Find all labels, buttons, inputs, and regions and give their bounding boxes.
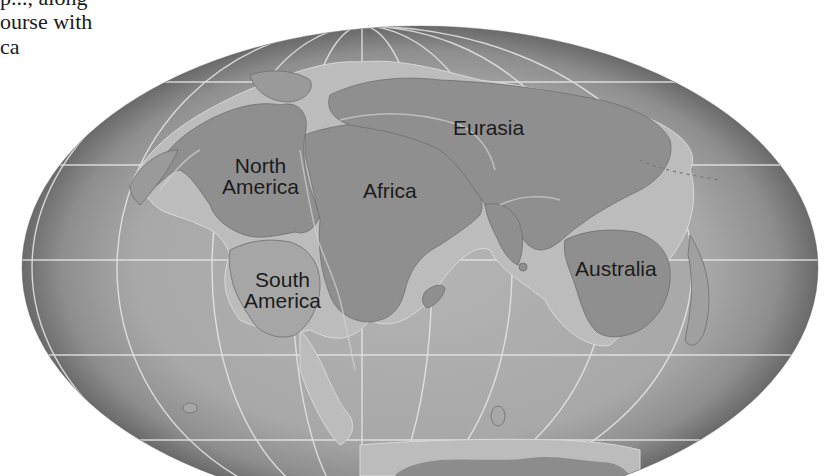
label-south-america-line-1: South bbox=[244, 269, 321, 290]
label-north-america-line-1: North bbox=[222, 155, 299, 176]
world-map bbox=[0, 0, 825, 476]
label-north-america-line-2: America bbox=[222, 176, 299, 197]
label-south-america-line-2: America bbox=[244, 290, 321, 311]
label-australia: Australia bbox=[575, 258, 657, 279]
label-north-america: North America bbox=[222, 155, 299, 197]
label-south-america: South America bbox=[244, 269, 321, 311]
label-africa: Africa bbox=[363, 180, 417, 201]
label-eurasia: Eurasia bbox=[453, 117, 524, 138]
